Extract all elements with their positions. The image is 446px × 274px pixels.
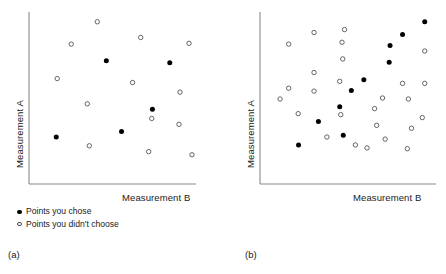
data-point-chosen (387, 60, 392, 65)
data-point-not-chosen (372, 106, 376, 110)
legend-label-chose: Points you chose (25, 205, 91, 218)
data-point-not-chosen (342, 27, 346, 31)
data-point-not-chosen (353, 143, 357, 147)
data-point-not-chosen (338, 79, 342, 83)
data-point-not-chosen (374, 123, 378, 127)
data-point-not-chosen (400, 81, 404, 85)
data-point-not-chosen (339, 112, 343, 116)
data-point-not-chosen (95, 20, 99, 24)
data-point-not-chosen (341, 57, 345, 61)
data-point-chosen (400, 32, 405, 37)
data-point-not-chosen (423, 49, 427, 53)
data-point-not-chosen (139, 35, 143, 39)
data-point-chosen (422, 19, 427, 24)
panel-b-caption: (b) (245, 249, 257, 260)
data-point-not-chosen (190, 153, 194, 157)
panel-b-x-axis-label: Measurement B (353, 192, 421, 203)
panel-b-y-axis-label: Measurement A (245, 100, 256, 168)
data-point-not-chosen (147, 149, 151, 153)
open-circle-icon (14, 218, 25, 231)
data-point-chosen (361, 77, 366, 82)
data-point-not-chosen (409, 126, 413, 130)
data-point-not-chosen (340, 40, 344, 44)
data-point-not-chosen (130, 80, 134, 84)
data-point-not-chosen (406, 97, 410, 101)
data-point-chosen (316, 119, 321, 124)
legend-item-not-chose: Points you didn't choose (14, 218, 119, 231)
data-point-not-chosen (187, 41, 191, 45)
legend-item-chose: Points you chose (14, 205, 119, 218)
data-point-not-chosen (55, 76, 59, 80)
data-point-not-chosen (178, 90, 182, 94)
data-point-chosen (104, 58, 109, 63)
data-point-not-chosen (405, 147, 409, 151)
data-point-chosen (167, 60, 172, 65)
data-point-not-chosen (286, 42, 290, 46)
panel-a: Measurement A Measurement B (0, 0, 223, 274)
data-point-not-chosen (69, 42, 73, 46)
scatter-figure: Measurement A Measurement B Measurement … (0, 0, 446, 274)
data-point-not-chosen (365, 146, 369, 150)
panel-a-x-axis-label: Measurement B (122, 192, 190, 203)
data-point-chosen (296, 142, 301, 147)
data-point-not-chosen (278, 97, 282, 101)
legend-label-not-chose: Points you didn't choose (25, 218, 119, 231)
legend: Points you chose Points you didn't choos… (14, 205, 119, 230)
data-point-not-chosen (312, 89, 316, 93)
data-point-chosen (150, 107, 155, 112)
data-point-chosen (349, 88, 354, 93)
data-point-not-chosen (420, 115, 424, 119)
panel-b: Measurement A Measurement B (223, 0, 446, 274)
data-point-not-chosen (312, 30, 316, 34)
data-point-not-chosen (150, 116, 154, 120)
panel-b-plot (223, 0, 446, 200)
data-point-chosen (388, 43, 393, 48)
data-point-not-chosen (383, 137, 387, 141)
data-point-chosen (341, 133, 346, 138)
data-point-chosen (337, 104, 342, 109)
data-point-not-chosen (286, 86, 290, 90)
data-point-not-chosen (423, 81, 427, 85)
data-point-not-chosen (87, 144, 91, 148)
panel-a-plot (0, 0, 223, 200)
data-point-not-chosen (85, 102, 89, 106)
data-point-not-chosen (177, 122, 181, 126)
filled-circle-icon (14, 205, 25, 218)
data-point-not-chosen (312, 70, 316, 74)
data-point-not-chosen (296, 111, 300, 115)
data-point-chosen (54, 135, 59, 140)
data-point-not-chosen (325, 135, 329, 139)
data-point-not-chosen (380, 96, 384, 100)
data-point-chosen (119, 129, 124, 134)
panel-a-caption: (a) (8, 249, 20, 260)
panel-a-y-axis-label: Measurement A (14, 100, 25, 168)
